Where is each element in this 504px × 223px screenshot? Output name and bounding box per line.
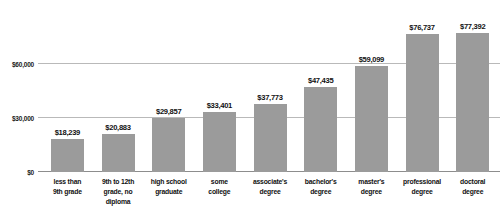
y-axis-tick-label: $0 — [0, 169, 34, 176]
x-axis-category-label: bachelor's degree — [295, 174, 346, 222]
bar[interactable]: $20,883 — [102, 134, 135, 172]
bar-column[interactable]: $37,773 — [245, 10, 296, 172]
x-axis-category-label: some college — [194, 174, 245, 222]
bar-value-label: $29,857 — [156, 107, 181, 116]
bar-column[interactable]: $59,099 — [346, 10, 397, 172]
x-axis-category-label: 9th to 12th grade, no diploma — [93, 174, 144, 222]
bar-column[interactable]: $76,737 — [397, 10, 448, 172]
bar-value-label: $33,401 — [207, 101, 232, 110]
x-axis-labels: less than 9th grade9th to 12th grade, no… — [38, 174, 500, 222]
bar-series: $18,239$20,883$29,857$33,401$37,773$47,4… — [38, 10, 500, 172]
bar-column[interactable]: $29,857 — [143, 10, 194, 172]
bar-column[interactable]: $20,883 — [93, 10, 144, 172]
bar[interactable]: $77,392 — [456, 33, 489, 172]
x-axis-category-label: high school graduate — [143, 174, 194, 222]
bar-value-label: $77,392 — [460, 22, 485, 31]
bar-column[interactable]: $47,435 — [295, 10, 346, 172]
x-axis-category-label: master's degree — [346, 174, 397, 222]
bar[interactable]: $76,737 — [406, 34, 439, 172]
bar-value-label: $18,239 — [55, 128, 80, 137]
x-axis-category-label: doctoral degree — [447, 174, 498, 222]
y-axis: $60,000$30,000$0 — [0, 0, 36, 223]
x-axis-category-label: associate's degree — [245, 174, 296, 222]
bar-value-label: $20,883 — [105, 123, 130, 132]
bar[interactable]: $37,773 — [254, 104, 287, 172]
bar-value-label: $59,099 — [359, 55, 384, 64]
bar-value-label: $76,737 — [409, 23, 434, 32]
x-axis-category-label: less than 9th grade — [42, 174, 93, 222]
bar[interactable]: $47,435 — [304, 87, 337, 172]
y-axis-tick-label: $30,000 — [0, 115, 34, 122]
bar[interactable]: $29,857 — [152, 118, 185, 172]
x-axis-category-label: professional degree — [397, 174, 448, 222]
bar[interactable]: $18,239 — [51, 139, 84, 172]
plot-area: $18,239$20,883$29,857$33,401$37,773$47,4… — [38, 10, 500, 172]
bar-column[interactable]: $77,392 — [447, 10, 498, 172]
bar-value-label: $37,773 — [257, 93, 282, 102]
y-axis-tick-label: $60,000 — [0, 61, 34, 68]
bar[interactable]: $33,401 — [203, 112, 236, 172]
bar[interactable]: $59,099 — [355, 66, 388, 172]
bar-value-label: $47,435 — [308, 76, 333, 85]
bar-column[interactable]: $18,239 — [42, 10, 93, 172]
bar-column[interactable]: $33,401 — [194, 10, 245, 172]
bar-chart: $60,000$30,000$0 $18,239$20,883$29,857$3… — [0, 0, 504, 223]
